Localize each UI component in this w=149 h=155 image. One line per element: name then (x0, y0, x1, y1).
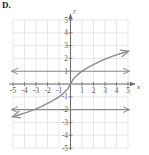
x-tick-label: 4 (115, 86, 119, 95)
x-tick-label: -5 (10, 86, 16, 95)
y-tick-label: 2 (64, 54, 68, 63)
y-tick-label: -1 (62, 92, 68, 101)
x-tick-label: -3 (33, 86, 39, 95)
x-tick-label: -4 (21, 86, 27, 95)
x-tick-label: -2 (44, 86, 50, 95)
y-axis-label: y (72, 7, 77, 15)
y-tick-label: 4 (64, 28, 68, 37)
coordinate-plane: -5-4-3-2-112345-5-4-3-2-112345 xy (0, 0, 149, 155)
x-tick-label: 5 (126, 86, 130, 95)
y-tick-label: -3 (62, 118, 68, 127)
x-tick-label: 2 (92, 86, 96, 95)
x-axis-label: x (136, 83, 141, 91)
y-tick-label: 3 (64, 41, 68, 50)
graph-figure: D. -5-4-3-2-112345-5-4-3-2-112345 xy (0, 0, 149, 155)
y-tick-label: 5 (64, 16, 68, 25)
y-tick-label: -4 (62, 131, 68, 140)
y-tick-label: 1 (64, 67, 68, 76)
y-tick-label: -5 (62, 144, 68, 153)
y-tick-label: -2 (62, 105, 68, 114)
x-tick-label: 1 (80, 86, 84, 95)
x-tick-label: 3 (103, 86, 107, 95)
